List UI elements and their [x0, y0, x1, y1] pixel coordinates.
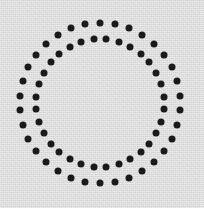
- data-point-dot: [35, 118, 42, 125]
- data-point-dot: [78, 38, 85, 45]
- data-point-dot: [158, 81, 165, 88]
- data-point-dot: [33, 106, 40, 113]
- data-point-dot: [82, 21, 89, 28]
- data-point-dot: [160, 51, 167, 58]
- data-point-dot: [137, 149, 144, 156]
- data-point-dot: [137, 50, 144, 57]
- data-point-dot: [160, 148, 167, 155]
- data-point-dot: [66, 43, 73, 50]
- data-point-dot: [25, 135, 32, 142]
- data-point-dot: [68, 25, 75, 32]
- data-point-dot: [56, 149, 63, 156]
- data-point-dot: [78, 161, 85, 168]
- data-point-dot: [115, 38, 122, 45]
- data-point-dot: [20, 78, 27, 85]
- data-point-dot: [168, 135, 175, 142]
- data-point-dot: [33, 93, 40, 100]
- data-point-dot: [43, 159, 50, 166]
- data-point-dot: [33, 51, 40, 58]
- data-point-dot: [103, 36, 110, 43]
- data-point-dot: [82, 178, 89, 185]
- data-point-dot: [139, 168, 146, 175]
- data-point-dot: [90, 163, 97, 170]
- data-point-dot: [20, 121, 27, 128]
- data-point-dot: [90, 36, 97, 43]
- data-point-dot: [127, 43, 134, 50]
- data-point-dot: [35, 81, 42, 88]
- data-point-dot: [173, 78, 180, 85]
- data-point-dot: [66, 156, 73, 163]
- data-point-dot: [54, 31, 61, 38]
- data-point-dot: [111, 21, 118, 28]
- data-point-dot: [115, 161, 122, 168]
- data-point-dot: [139, 31, 146, 38]
- data-point-dot: [125, 25, 132, 32]
- data-point-dot: [176, 107, 183, 114]
- data-point-dot: [40, 130, 47, 137]
- data-point-dot: [111, 178, 118, 185]
- data-point-dot: [103, 163, 110, 170]
- data-point-dot: [68, 174, 75, 181]
- data-point-dot: [56, 50, 63, 57]
- data-point-dot: [160, 106, 167, 113]
- data-point-dot: [150, 159, 157, 166]
- data-point-dot: [158, 118, 165, 125]
- data-point-dot: [160, 93, 167, 100]
- data-point-dot: [127, 156, 134, 163]
- data-point-dot: [150, 40, 157, 47]
- data-point-dot: [125, 174, 132, 181]
- data-point-dot: [17, 92, 24, 99]
- data-point-dot: [173, 121, 180, 128]
- data-point-dot: [17, 107, 24, 114]
- data-point-dot: [146, 59, 153, 66]
- data-point-dot: [153, 69, 160, 76]
- data-point-dot: [25, 64, 32, 71]
- data-point-dot: [97, 20, 104, 27]
- data-point-dot: [43, 40, 50, 47]
- data-point-dot: [47, 59, 54, 66]
- data-point-dot: [47, 140, 54, 147]
- data-point-dot: [54, 168, 61, 175]
- data-point-dot: [40, 69, 47, 76]
- dot-layer: [0, 0, 204, 208]
- dot-ring-figure: [0, 0, 204, 208]
- data-point-dot: [97, 180, 104, 187]
- data-point-dot: [33, 148, 40, 155]
- data-point-dot: [146, 140, 153, 147]
- data-point-dot: [153, 130, 160, 137]
- data-point-dot: [176, 92, 183, 99]
- data-point-dot: [168, 64, 175, 71]
